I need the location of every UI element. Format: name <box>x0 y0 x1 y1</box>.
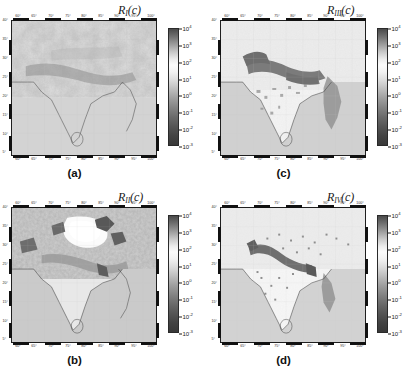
lon-tick-label: 65° <box>240 202 245 206</box>
frame-tick <box>9 227 12 242</box>
lon-tick-label: 75° <box>274 15 279 19</box>
cb-tick-exp: -2 <box>398 125 402 130</box>
frame-tick <box>156 323 159 338</box>
cb-tick-exp: 1 <box>189 74 191 79</box>
lon-tick-label: 60° <box>15 202 20 206</box>
lat-tick-label: 40° <box>3 206 8 210</box>
cb-tick-exp: 2 <box>398 57 400 62</box>
frame-tick <box>254 18 270 21</box>
lon-tick-label: 75° <box>274 345 279 349</box>
panel-d: RIV(c) <box>209 187 418 374</box>
lon-tick-label: 65° <box>240 15 245 19</box>
lon-tick-label: 100° <box>356 15 363 19</box>
panel-c: RIII(c) <box>209 0 418 187</box>
cb-tick-exp: -3 <box>398 329 402 334</box>
cb-tick-exp: -3 <box>189 329 193 334</box>
map-a: 60° 65° 70° 75° 80° 85° 90° 95° 100° 60°… <box>11 20 157 156</box>
lat-tick-label: 25° <box>3 263 8 267</box>
lon-tick-label: 70° <box>48 158 53 162</box>
lat-tick-label: 40° <box>212 19 217 23</box>
lat-tick-label: 30° <box>212 57 217 61</box>
map-d: 60° 65° 70° 75° 80° 85° 90° 95° 100° 60°… <box>220 207 366 343</box>
lat-tick-label: 5° <box>212 338 215 342</box>
lat-tick-label: 20° <box>3 95 8 99</box>
lon-tick-label: 85° <box>307 15 312 19</box>
lon-tick-label: 90° <box>114 345 119 349</box>
lon-tick-label: 85° <box>98 202 103 206</box>
frame-tick <box>365 291 368 306</box>
lon-tick-label: 65° <box>240 158 245 162</box>
frame-tick <box>218 72 221 87</box>
lon-tick-label: 65° <box>240 345 245 349</box>
lat-tick-label: 15° <box>3 301 8 305</box>
lat-tick-label: 15° <box>212 114 217 118</box>
frame-tick <box>365 72 368 87</box>
colorbar-b <box>168 215 179 333</box>
frame-tick <box>9 291 12 306</box>
colorbar-ticks-a: 104 103 102 101 100 10-1 10-2 10-3 <box>179 28 207 146</box>
lat-tick-label: 20° <box>3 282 8 286</box>
cb-tick-exp: 2 <box>189 57 191 62</box>
lon-tick-label: 95° <box>131 345 136 349</box>
lat-tick-label: 15° <box>212 301 217 305</box>
lon-tick-label: 95° <box>340 158 345 162</box>
cb-tick-exp: -1 <box>189 108 193 113</box>
cb-tick-exp: -2 <box>398 312 402 317</box>
frame-tick <box>286 18 302 21</box>
lat-tick-label: 25° <box>3 76 8 80</box>
frame-tick <box>365 227 368 242</box>
cb-tick-exp: 3 <box>189 40 191 45</box>
lon-tick-label: 70° <box>257 202 262 206</box>
frame-tick <box>254 205 270 208</box>
frame-tick <box>13 18 29 21</box>
lon-tick-label: 80° <box>290 345 295 349</box>
frame-tick <box>318 205 334 208</box>
cb-tick-exp: 0 <box>189 278 191 283</box>
lon-tick-label: 100° <box>147 202 154 206</box>
lon-tick-label: 75° <box>65 202 70 206</box>
lon-tick-label: 60° <box>224 15 229 19</box>
frame-tick <box>218 291 221 306</box>
frame-tick <box>222 18 238 21</box>
frame-tick <box>156 40 159 55</box>
frame-tick <box>156 72 159 87</box>
lat-tick-label: 5° <box>3 338 6 342</box>
cb-tick-exp: -2 <box>189 312 193 317</box>
lat-tick-label: 35° <box>212 38 217 42</box>
cb-tick-exp: 0 <box>189 91 191 96</box>
lon-tick-label: 85° <box>307 158 312 162</box>
figure-grid: RI(c) <box>0 0 418 374</box>
frame-tick <box>9 40 12 55</box>
lat-tick-label: 25° <box>212 263 217 267</box>
lon-tick-label: 90° <box>114 202 119 206</box>
cb-tick-exp: 4 <box>189 24 191 29</box>
lon-tick-label: 60° <box>224 158 229 162</box>
colorbar-d <box>377 215 388 333</box>
map-c: 60° 65° 70° 75° 80° 85° 90° 95° 100° 60°… <box>220 20 366 156</box>
lat-tick-label: 10° <box>3 320 8 324</box>
cb-tick-exp: 4 <box>189 211 191 216</box>
lon-tick-label: 75° <box>65 15 70 19</box>
cb-tick-exp: 1 <box>189 261 191 266</box>
lat-tick-label: 30° <box>3 244 8 248</box>
cb-tick-exp: 4 <box>398 211 400 216</box>
lat-tick-label: 25° <box>212 76 217 80</box>
map-canvas-d <box>221 208 365 342</box>
lon-tick-label: 100° <box>356 202 363 206</box>
frame-tick <box>218 323 221 338</box>
lon-tick-label: 90° <box>114 15 119 19</box>
lon-tick-label: 60° <box>224 202 229 206</box>
frame-tick <box>141 18 157 21</box>
cb-tick-exp: 2 <box>189 244 191 249</box>
panel-caption-b: (b) <box>0 354 149 366</box>
cb-tick-exp: -3 <box>189 142 193 147</box>
lon-tick-label: 60° <box>15 345 20 349</box>
frame-tick <box>156 136 159 151</box>
lon-tick-label: 90° <box>323 202 328 206</box>
cb-tick-exp: 1 <box>398 74 400 79</box>
lon-tick-label: 80° <box>81 15 86 19</box>
lat-tick-label: 10° <box>212 320 217 324</box>
lon-tick-label: 75° <box>65 158 70 162</box>
frame-tick <box>109 18 125 21</box>
map-canvas-c <box>221 21 365 155</box>
